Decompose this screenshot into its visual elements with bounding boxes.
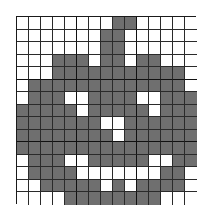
grid-cell[interactable]	[161, 130, 173, 143]
grid-cell[interactable]	[161, 142, 173, 155]
grid-cell[interactable]	[173, 130, 185, 143]
grid-cell[interactable]	[185, 142, 197, 155]
grid-cell[interactable]	[113, 130, 125, 143]
grid-cell[interactable]	[41, 80, 53, 93]
grid-cell[interactable]	[149, 55, 161, 68]
grid-cell[interactable]	[161, 55, 173, 68]
grid-cell[interactable]	[17, 80, 29, 93]
grid-cell[interactable]	[113, 180, 125, 193]
grid-cell[interactable]	[77, 142, 89, 155]
grid-cell[interactable]	[125, 180, 137, 193]
grid-cell[interactable]	[17, 117, 29, 130]
grid-cell[interactable]	[137, 92, 149, 105]
grid-cell[interactable]	[53, 155, 65, 168]
grid-cell[interactable]	[89, 67, 101, 80]
grid-cell[interactable]	[149, 155, 161, 168]
grid-cell[interactable]	[41, 180, 53, 193]
grid-cell[interactable]	[149, 192, 161, 205]
grid-cell[interactable]	[29, 130, 41, 143]
grid-cell[interactable]	[149, 42, 161, 55]
grid-cell[interactable]	[125, 142, 137, 155]
grid-cell[interactable]	[101, 192, 113, 205]
grid-cell[interactable]	[41, 117, 53, 130]
grid-cell[interactable]	[113, 55, 125, 68]
grid-cell[interactable]	[53, 67, 65, 80]
grid-cell[interactable]	[101, 155, 113, 168]
grid-cell[interactable]	[125, 130, 137, 143]
grid-cell[interactable]	[65, 55, 77, 68]
grid-cell[interactable]	[53, 17, 65, 30]
grid-cell[interactable]	[185, 17, 197, 30]
grid-cell[interactable]	[161, 105, 173, 118]
grid-cell[interactable]	[185, 67, 197, 80]
grid-cell[interactable]	[185, 42, 197, 55]
grid-cell[interactable]	[29, 155, 41, 168]
grid-cell[interactable]	[65, 117, 77, 130]
grid-cell[interactable]	[89, 55, 101, 68]
grid-cell[interactable]	[161, 42, 173, 55]
grid-cell[interactable]	[17, 42, 29, 55]
grid-cell[interactable]	[29, 42, 41, 55]
grid-cell[interactable]	[173, 67, 185, 80]
grid-cell[interactable]	[185, 180, 197, 193]
grid-cell[interactable]	[65, 130, 77, 143]
grid-cell[interactable]	[137, 80, 149, 93]
grid-cell[interactable]	[77, 105, 89, 118]
grid-cell[interactable]	[101, 67, 113, 80]
grid-cell[interactable]	[17, 17, 29, 30]
grid-cell[interactable]	[29, 117, 41, 130]
grid-cell[interactable]	[149, 142, 161, 155]
grid-cell[interactable]	[113, 30, 125, 43]
grid-cell[interactable]	[65, 80, 77, 93]
grid-cell[interactable]	[65, 17, 77, 30]
grid-cell[interactable]	[161, 80, 173, 93]
grid-cell[interactable]	[113, 155, 125, 168]
grid-cell[interactable]	[17, 155, 29, 168]
grid-cell[interactable]	[161, 30, 173, 43]
grid-cell[interactable]	[101, 55, 113, 68]
grid-cell[interactable]	[77, 42, 89, 55]
grid-cell[interactable]	[149, 30, 161, 43]
grid-cell[interactable]	[53, 42, 65, 55]
grid-cell[interactable]	[149, 180, 161, 193]
grid-cell[interactable]	[185, 167, 197, 180]
grid-cell[interactable]	[173, 105, 185, 118]
grid-cell[interactable]	[149, 67, 161, 80]
grid-cell[interactable]	[77, 155, 89, 168]
grid-cell[interactable]	[77, 192, 89, 205]
grid-cell[interactable]	[41, 167, 53, 180]
grid-cell[interactable]	[53, 142, 65, 155]
grid-cell[interactable]	[77, 55, 89, 68]
grid-cell[interactable]	[137, 142, 149, 155]
grid-cell[interactable]	[17, 105, 29, 118]
grid-cell[interactable]	[77, 167, 89, 180]
grid-cell[interactable]	[173, 80, 185, 93]
grid-cell[interactable]	[89, 80, 101, 93]
grid-cell[interactable]	[149, 117, 161, 130]
grid-cell[interactable]	[125, 105, 137, 118]
grid-cell[interactable]	[65, 192, 77, 205]
grid-cell[interactable]	[125, 30, 137, 43]
grid-cell[interactable]	[185, 30, 197, 43]
grid-cell[interactable]	[125, 167, 137, 180]
grid-cell[interactable]	[161, 17, 173, 30]
grid-cell[interactable]	[113, 192, 125, 205]
grid-cell[interactable]	[89, 92, 101, 105]
grid-cell[interactable]	[173, 42, 185, 55]
grid-cell[interactable]	[101, 42, 113, 55]
grid-cell[interactable]	[53, 180, 65, 193]
grid-cell[interactable]	[65, 30, 77, 43]
grid-cell[interactable]	[29, 180, 41, 193]
grid-cell[interactable]	[137, 117, 149, 130]
grid-cell[interactable]	[101, 130, 113, 143]
grid-cell[interactable]	[113, 17, 125, 30]
grid-cell[interactable]	[77, 30, 89, 43]
grid-cell[interactable]	[65, 142, 77, 155]
grid-cell[interactable]	[65, 105, 77, 118]
grid-cell[interactable]	[77, 180, 89, 193]
grid-cell[interactable]	[53, 117, 65, 130]
grid-cell[interactable]	[41, 192, 53, 205]
grid-cell[interactable]	[41, 155, 53, 168]
grid-cell[interactable]	[173, 167, 185, 180]
grid-cell[interactable]	[173, 142, 185, 155]
